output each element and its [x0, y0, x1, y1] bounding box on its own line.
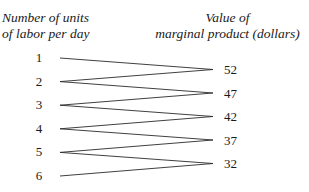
connector-line [60, 129, 213, 140]
connector-line [60, 164, 213, 177]
marginal-value-label: 47 [224, 86, 238, 101]
connector-line [60, 105, 213, 116]
labor-unit-label: 5 [36, 144, 43, 159]
connector-line [60, 140, 213, 152]
labor-marginal-product-diagram: 1234565247423732 [0, 0, 309, 192]
connector-line [60, 58, 213, 70]
marginal-value-label: 42 [224, 109, 237, 124]
marginal-value-label: 32 [224, 156, 237, 171]
connector-line [60, 70, 213, 82]
connector-line [60, 117, 213, 129]
connector-line [60, 93, 213, 105]
labor-unit-label: 4 [36, 121, 43, 136]
connector-line [60, 152, 213, 163]
marginal-value-label: 37 [224, 133, 238, 148]
labor-unit-label: 3 [36, 97, 43, 112]
marginal-value-label: 52 [224, 62, 237, 77]
labor-unit-label: 2 [36, 74, 43, 89]
labor-unit-label: 1 [36, 50, 43, 65]
labor-unit-label: 6 [36, 168, 43, 183]
connector-line [60, 82, 213, 93]
